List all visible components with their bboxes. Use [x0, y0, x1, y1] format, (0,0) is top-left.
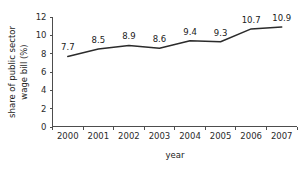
data-point-label: 8.5	[92, 35, 106, 45]
x-tick-label: 2005	[210, 131, 232, 141]
y-axis-tick-labels: 024681012	[36, 12, 47, 132]
y-axis-title-line2: wage bill (%)	[19, 44, 29, 99]
y-tick-label: 0	[41, 122, 46, 132]
y-tick-label: 4	[41, 85, 46, 95]
x-axis-tick-labels: 20002001200220032004200520062007	[57, 131, 293, 141]
y-axis-title-line1: share of public sector	[7, 26, 17, 118]
chart-canvas: 024681012 200020012002200320042005200620…	[0, 0, 308, 173]
data-point-label: 7.7	[61, 42, 75, 52]
data-point-label: 8.6	[153, 34, 167, 44]
x-tick-label: 2000	[57, 131, 79, 141]
x-tick-label: 2006	[240, 131, 262, 141]
data-point-label: 9.4	[183, 27, 197, 37]
y-axis-title: share of public sector wage bill (%)	[7, 26, 29, 118]
x-tick-label: 2007	[271, 131, 293, 141]
x-tick-label: 2002	[118, 131, 140, 141]
data-point-label: 10.9	[272, 13, 291, 23]
y-tick-label: 8	[41, 49, 46, 59]
x-axis-title: year	[166, 150, 185, 160]
data-point-labels: 7.78.58.98.69.49.310.710.9	[61, 13, 291, 52]
y-tick-label: 6	[41, 67, 46, 77]
x-tick-label: 2001	[88, 131, 110, 141]
x-axis-ticks	[53, 127, 298, 130]
data-point-label: 10.7	[242, 15, 261, 25]
line-chart: 024681012 200020012002200320042005200620…	[0, 0, 308, 173]
data-point-label: 8.9	[122, 31, 136, 41]
y-tick-label: 10	[36, 30, 47, 40]
x-tick-label: 2003	[149, 131, 171, 141]
y-tick-label: 12	[36, 12, 47, 22]
x-tick-label: 2004	[179, 131, 201, 141]
y-tick-label: 2	[41, 104, 46, 114]
data-point-label: 9.3	[214, 28, 228, 38]
